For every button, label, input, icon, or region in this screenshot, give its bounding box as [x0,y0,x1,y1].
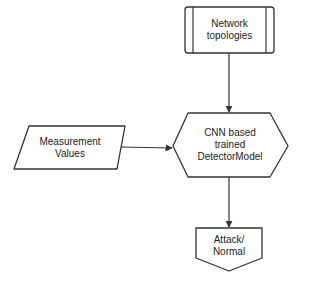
attack-normal-line2: Normal [213,246,245,258]
network-topologies-label: Network topologies [193,9,266,51]
edge-measurement-to-detector [121,147,172,148]
measurement-values-label: Measurement Values [22,127,118,168]
detector-model-label: CNN based trained DetectorModel [182,115,278,175]
network-topologies-line2: topologies [207,30,253,42]
detector-model-line2: trained [215,139,246,151]
measurement-values-line1: Measurement [39,136,100,148]
detector-model-line3: DetectorModel [197,151,262,163]
attack-normal-line1: Attack/ [214,234,245,246]
attack-normal-label: Attack/ Normal [196,232,262,260]
measurement-values-line2: Values [55,148,85,160]
network-topologies-line1: Network [211,18,248,30]
detector-model-line1: CNN based [204,127,256,139]
